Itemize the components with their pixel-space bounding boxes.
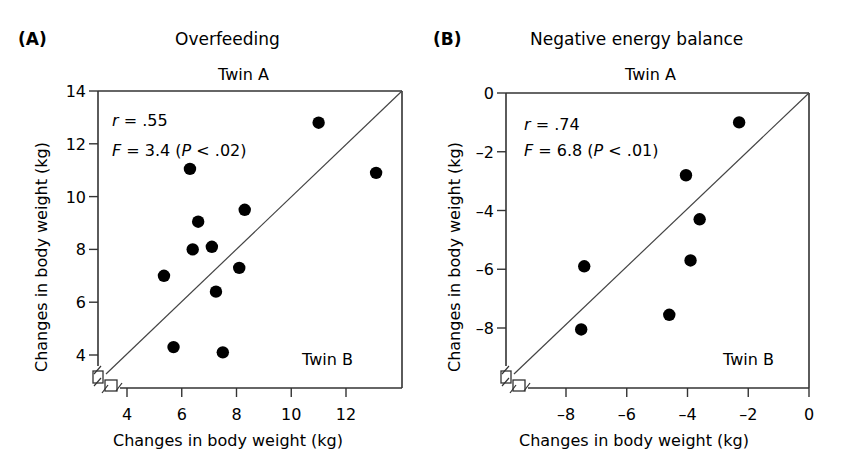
panel-b-title: Negative energy balance <box>530 29 743 49</box>
data-point <box>187 243 199 255</box>
x-tick-label: 10 <box>281 405 301 424</box>
f-value: = 6.8 ( <box>533 141 593 160</box>
identity-line <box>514 93 809 374</box>
panel-b-xlabel: Changes in body weight (kg) <box>519 431 749 450</box>
y-tick-label: 0 <box>484 84 494 103</box>
panel-a-twin-a-label: Twin A <box>217 65 269 84</box>
panel-b-ylabel: Changes in body weight (kg) <box>445 142 464 372</box>
x-axis-break-icon <box>513 380 525 391</box>
figure: (A) Overfeeding Twin A Twin B Changes in… <box>0 0 841 476</box>
panel-b-label: (B) <box>433 29 462 49</box>
data-point <box>158 270 170 282</box>
p-value: < .02) <box>191 141 246 160</box>
data-point <box>680 169 692 181</box>
data-point <box>184 163 196 175</box>
panel-b-r-stat: r = .74 <box>524 115 580 134</box>
panel-a-f-stat: F = 3.4 (P < .02) <box>112 141 246 160</box>
x-tick-label: –4 <box>678 405 696 424</box>
y-tick-label: –8 <box>476 319 494 338</box>
p-symbol: P <box>182 141 192 160</box>
panel-a-title: Overfeeding <box>175 29 280 49</box>
data-point <box>233 262 245 274</box>
y-tick-label: 12 <box>66 135 86 154</box>
data-point <box>210 285 222 297</box>
panel-b-twin-b-label: Twin B <box>722 350 774 369</box>
data-point <box>239 204 251 216</box>
panel-b-twin-a-label: Twin A <box>624 65 676 84</box>
data-point <box>578 260 590 272</box>
x-tick-label: 4 <box>122 405 132 424</box>
y-tick-label: 14 <box>66 82 86 101</box>
panel-a-r-stat: r = .55 <box>112 111 168 130</box>
y-tick-label: 4 <box>76 346 86 365</box>
panel-a-plot: 4681012468101214 <box>66 82 402 424</box>
y-tick-label: –2 <box>476 143 494 162</box>
f-value: = 3.4 ( <box>121 141 181 160</box>
y-tick-label: 10 <box>66 188 86 207</box>
x-tick-label: 0 <box>804 405 814 424</box>
data-point <box>663 309 675 321</box>
identity-line <box>106 91 402 374</box>
data-point <box>684 254 696 266</box>
x-tick-label: 6 <box>177 405 187 424</box>
data-point <box>370 167 382 179</box>
p-value: < .01) <box>603 141 658 160</box>
panel-a-xlabel: Changes in body weight (kg) <box>113 431 343 450</box>
panel-a: (A) Overfeeding Twin A Twin B Changes in… <box>18 29 402 450</box>
panel-a-label: (A) <box>18 29 47 49</box>
data-point <box>693 213 705 225</box>
panel-a-ylabel: Changes in body weight (kg) <box>32 142 51 372</box>
p-symbol: P <box>594 141 604 160</box>
data-point <box>167 341 179 353</box>
data-point <box>192 215 204 227</box>
x-axis-break-icon <box>105 380 117 391</box>
r-value: = .55 <box>119 111 168 130</box>
panel-b-f-stat: F = 6.8 (P < .01) <box>524 141 658 160</box>
data-point <box>217 346 229 358</box>
data-point <box>206 241 218 253</box>
data-point <box>575 323 587 335</box>
y-tick-label: 6 <box>76 293 86 312</box>
data-point <box>733 116 745 128</box>
r-value: = .74 <box>531 115 580 134</box>
x-tick-label: 12 <box>336 405 356 424</box>
panel-b: (B) Negative energy balance Twin A Twin … <box>433 29 814 450</box>
y-tick-label: 8 <box>76 240 86 259</box>
panel-a-twin-b-label: Twin B <box>301 350 353 369</box>
panel-b-plot: –8–6–4–20–8–6–4–20 <box>476 84 814 424</box>
data-point <box>312 116 324 128</box>
x-tick-label: –8 <box>557 405 575 424</box>
x-tick-label: –2 <box>739 405 757 424</box>
x-tick-label: –6 <box>618 405 636 424</box>
y-tick-label: –4 <box>476 202 494 221</box>
y-tick-label: –6 <box>476 260 494 279</box>
x-tick-label: 8 <box>231 405 241 424</box>
